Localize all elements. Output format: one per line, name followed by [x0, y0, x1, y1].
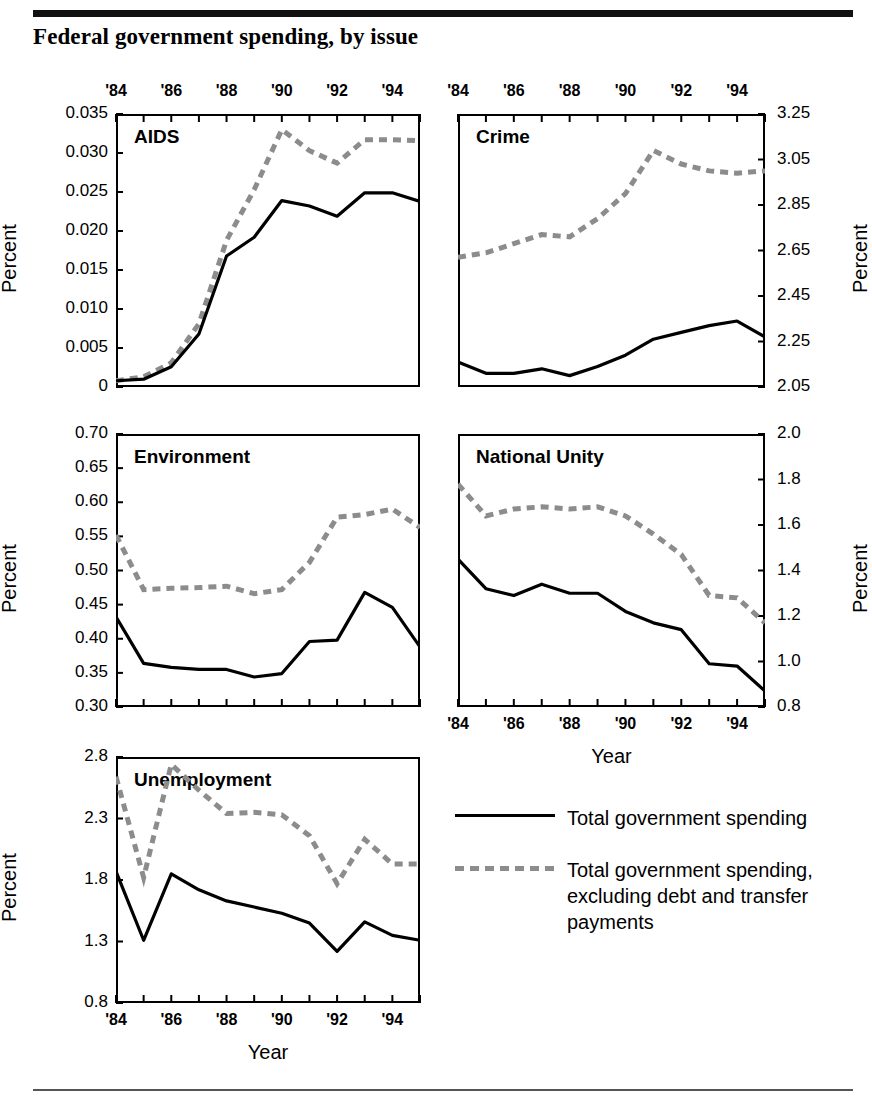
- x-axis-tick-label: '92: [311, 82, 363, 100]
- x-axis-tick-label: '88: [201, 1011, 253, 1029]
- y-axis-tick-label: 0.50: [38, 560, 108, 580]
- x-axis-tick-label: '86: [488, 715, 540, 733]
- chart-legend: Total government spending Total governme…: [455, 805, 855, 961]
- y-axis-tick-label: 2.25: [777, 331, 847, 351]
- bottom-divider-rule: [33, 1089, 853, 1091]
- plot-area: [116, 757, 420, 1003]
- y-axis-tick-label: 1.4: [777, 560, 847, 580]
- y-axis-tick-label: 0.010: [38, 298, 108, 318]
- y-axis-tick-label: 2.3: [38, 808, 108, 828]
- plot-area: [116, 114, 420, 387]
- panel-title-crime: Crime: [476, 126, 530, 148]
- legend-item-total-spending-excluding: Total government spending, excluding deb…: [455, 857, 855, 935]
- solid-line-key: [455, 805, 567, 817]
- y-axis-tick-label: 0: [38, 376, 108, 396]
- y-axis-title: Percent: [0, 853, 21, 922]
- y-axis-title: Percent: [849, 224, 872, 293]
- legend-label-total-spending-excluding: Total government spending, excluding deb…: [567, 857, 855, 935]
- y-axis-tick-label: 1.8: [38, 869, 108, 889]
- y-axis-tick-label: 2.05: [777, 376, 847, 396]
- y-axis-tick-label: 0.55: [38, 525, 108, 545]
- plot-area: [116, 434, 420, 707]
- y-axis-tick-label: 0.015: [38, 259, 108, 279]
- x-axis-tick-label: '92: [655, 715, 707, 733]
- y-axis-tick-label: 0.025: [38, 181, 108, 201]
- y-axis-tick-label: 0.035: [38, 103, 108, 123]
- y-axis-tick-label: 0.8: [38, 992, 108, 1012]
- y-axis-tick-label: 2.8: [38, 746, 108, 766]
- x-axis-tick-label: '84: [90, 1011, 142, 1029]
- x-axis-tick-label: '86: [145, 82, 197, 100]
- x-axis-tick-label: '94: [711, 82, 763, 100]
- x-axis-tick-label: '94: [366, 1011, 418, 1029]
- x-axis-tick-label: '94: [366, 82, 418, 100]
- x-axis-title: Year: [116, 1041, 420, 1064]
- x-axis-tick-label: '84: [90, 82, 142, 100]
- plot-area: [458, 114, 765, 387]
- y-axis-tick-label: 0.45: [38, 594, 108, 614]
- y-axis-tick-label: 3.25: [777, 103, 847, 123]
- figure-title: Federal government spending, by issue: [33, 24, 418, 50]
- dashed-line-key: [455, 857, 567, 871]
- legend-item-total-spending: Total government spending: [455, 805, 855, 831]
- y-axis-title: Percent: [0, 224, 21, 293]
- y-axis-tick-label: 2.65: [777, 240, 847, 260]
- x-axis-tick-label: '90: [599, 715, 651, 733]
- x-axis-tick-label: '88: [201, 82, 253, 100]
- x-axis-tick-label: '90: [256, 1011, 308, 1029]
- y-axis-tick-label: 3.05: [777, 149, 847, 169]
- x-axis-tick-label: '86: [145, 1011, 197, 1029]
- y-axis-title: Percent: [0, 544, 21, 613]
- y-axis-tick-label: 0.030: [38, 142, 108, 162]
- y-axis-tick-label: 0.30: [38, 696, 108, 716]
- y-axis-tick-label: 1.0: [777, 651, 847, 671]
- y-axis-tick-label: 0.8: [777, 696, 847, 716]
- x-axis-tick-label: '92: [311, 1011, 363, 1029]
- top-divider-rule: [33, 10, 853, 17]
- y-axis-tick-label: 0.020: [38, 220, 108, 240]
- y-axis-tick-label: 0.35: [38, 662, 108, 682]
- y-axis-tick-label: 0.005: [38, 337, 108, 357]
- x-axis-tick-label: '86: [488, 82, 540, 100]
- panel-title-environment: Environment: [134, 446, 250, 468]
- plot-area: [458, 434, 765, 707]
- y-axis-tick-label: 0.70: [38, 423, 108, 443]
- y-axis-tick-label: 2.85: [777, 194, 847, 214]
- legend-label-total-spending: Total government spending: [567, 805, 807, 831]
- y-axis-tick-label: 1.3: [38, 931, 108, 951]
- y-axis-tick-label: 0.65: [38, 457, 108, 477]
- x-axis-tick-label: '88: [544, 715, 596, 733]
- y-axis-tick-label: 2.45: [777, 285, 847, 305]
- panel-title-national-unity: National Unity: [476, 446, 604, 468]
- x-axis-tick-label: '90: [256, 82, 308, 100]
- x-axis-tick-label: '90: [599, 82, 651, 100]
- y-axis-tick-label: 1.8: [777, 469, 847, 489]
- y-axis-tick-label: 1.6: [777, 514, 847, 534]
- panel-title-unemployment: Unemployment: [134, 769, 271, 791]
- x-axis-title: Year: [458, 745, 765, 768]
- x-axis-tick-label: '88: [544, 82, 596, 100]
- y-axis-tick-label: 0.60: [38, 491, 108, 511]
- y-axis-title: Percent: [849, 544, 872, 613]
- y-axis-tick-label: 2.0: [777, 423, 847, 443]
- x-axis-tick-label: '84: [432, 82, 484, 100]
- y-axis-tick-label: 1.2: [777, 605, 847, 625]
- y-axis-tick-label: 0.40: [38, 628, 108, 648]
- x-axis-tick-label: '84: [432, 715, 484, 733]
- panel-title-aids: AIDS: [134, 126, 179, 148]
- x-axis-tick-label: '92: [655, 82, 707, 100]
- x-axis-tick-label: '94: [711, 715, 763, 733]
